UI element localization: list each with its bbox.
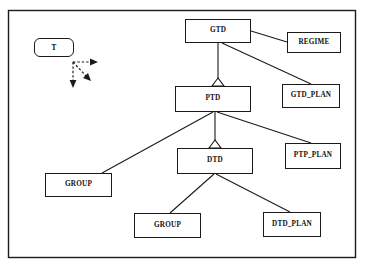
legend-arrow-diagonal-head xyxy=(83,73,91,81)
node-ptp-plan-label: PTP_PLAN xyxy=(294,152,332,159)
node-regime[interactable]: REGIME xyxy=(287,32,341,53)
node-group-bottom-label: GROUP xyxy=(154,222,181,229)
generalization-triangle-dtd xyxy=(209,140,221,148)
legend-arrow-right-head xyxy=(90,59,98,66)
generalization-triangle-ptd xyxy=(212,78,224,86)
node-dtd-plan-label: DTD_PLAN xyxy=(272,221,312,228)
node-group-bottom[interactable]: GROUP xyxy=(134,213,201,238)
node-gtd[interactable]: GTD xyxy=(185,19,251,43)
node-gtd-label: GTD xyxy=(210,27,226,34)
node-ptp-plan[interactable]: PTP_PLAN xyxy=(285,143,341,169)
node-group-left-label: GROUP xyxy=(65,181,92,188)
node-ptd[interactable]: PTD xyxy=(175,86,251,112)
legend-arrows xyxy=(70,59,98,88)
legend-node-t-label: T xyxy=(52,44,57,52)
edge-dtd-group-bottom xyxy=(170,174,214,213)
legend-node-t[interactable]: T xyxy=(34,38,74,57)
node-gtd-plan-label: GTD_PLAN xyxy=(291,92,331,99)
node-group-left[interactable]: GROUP xyxy=(45,173,112,197)
edge-dtd-dtdplan xyxy=(216,174,290,212)
node-dtd[interactable]: DTD xyxy=(177,148,253,174)
node-dtd-label: DTD xyxy=(207,157,223,164)
legend-arrow-diagonal-shaft xyxy=(73,62,86,76)
edge-gtd-regime xyxy=(251,31,287,42)
node-gtd-plan[interactable]: GTD_PLAN xyxy=(282,84,340,108)
node-regime-label: REGIME xyxy=(298,39,329,46)
node-ptd-label: PTD xyxy=(206,95,221,102)
node-dtd-plan[interactable]: DTD_PLAN xyxy=(263,212,321,237)
edge-ptd-ptpplan xyxy=(217,112,311,143)
legend-arrow-down-head xyxy=(70,80,77,88)
diagram-canvas: T GTD REGIME GTD_PLAN PTD PTP_PLAN DTD G… xyxy=(0,0,372,271)
